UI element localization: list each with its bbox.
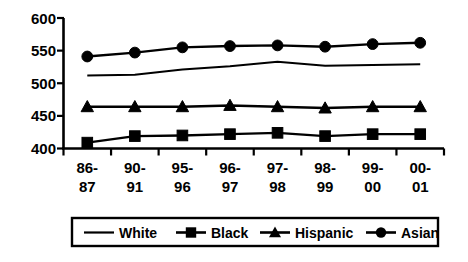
x-axis-tick-label: 90-91: [124, 159, 146, 195]
chart-container: 400450500550600 86-8790-9195-9696-9797-9…: [0, 0, 468, 262]
line-chart: 400450500550600 86-8790-9195-9696-9797-9…: [0, 0, 468, 262]
x-axis-tick-label: 95-96: [172, 159, 194, 195]
x-axis-tick-label: 99-00: [362, 159, 384, 195]
data-point-square: [82, 137, 93, 148]
x-axis-tick-label-line: 99-: [362, 159, 384, 176]
x-axis-tick-label-line: 98-: [314, 159, 336, 176]
legend-label: Hispanic: [295, 225, 354, 241]
x-axis-tick-label-line: 96: [174, 178, 191, 195]
x-axis-tick-label-line: 97-: [267, 159, 289, 176]
data-point-square: [320, 131, 331, 142]
data-point-circle: [225, 41, 236, 52]
legend-label: Asian: [401, 225, 439, 241]
data-point-circle: [272, 40, 283, 51]
data-point-circle: [129, 47, 140, 58]
x-axis-tick-label-line: 01: [412, 178, 429, 195]
y-axis-tick-label: 400: [31, 140, 56, 157]
legend-marker-circle: [376, 227, 386, 237]
y-axis-tick-label: 450: [31, 107, 56, 124]
x-axis-tick-label: 97-98: [267, 159, 289, 195]
chart-legend: WhiteBlackHispanicAsian: [72, 218, 439, 246]
series-black: [82, 128, 426, 148]
x-axis-tick-label-line: 95-: [172, 159, 194, 176]
legend-label: Black: [211, 225, 249, 241]
y-axis-tick-labels: 400450500550600: [31, 10, 56, 158]
chart-series-group: [81, 37, 426, 148]
data-point-square: [272, 128, 283, 139]
x-axis-tick-label-line: 90-: [124, 159, 146, 176]
data-point-square: [177, 130, 188, 141]
data-point-circle: [82, 51, 93, 62]
y-axis-tick-label: 500: [31, 75, 56, 92]
x-axis-tick-label-line: 96-: [219, 159, 241, 176]
x-axis-tick-label-line: 99: [317, 178, 334, 195]
x-axis-tick-label: 00-01: [409, 159, 431, 195]
series-asian: [82, 37, 426, 62]
x-axis-tick-label-line: 86-: [76, 159, 98, 176]
x-axis-tick-label: 98-99: [314, 159, 336, 195]
data-point-circle: [415, 37, 426, 48]
x-axis-tick-label-line: 87: [79, 178, 96, 195]
x-axis-tick-label-line: 91: [127, 178, 144, 195]
x-axis-tick-label-line: 98: [269, 178, 286, 195]
data-point-circle: [320, 41, 331, 52]
data-point-square: [225, 129, 236, 140]
x-axis-tick-label-line: 00: [364, 178, 381, 195]
x-axis-tick-labels: 86-8790-9195-9696-9797-9898-9999-0000-01: [76, 159, 431, 195]
series-white: [87, 62, 420, 76]
x-axis-tick-label: 96-97: [219, 159, 241, 195]
legend-label: White: [119, 225, 157, 241]
x-axis-tick-label-line: 00-: [409, 159, 431, 176]
data-point-circle: [177, 42, 188, 53]
y-axis-tick-label: 600: [31, 10, 56, 27]
legend-marker-square: [186, 227, 196, 237]
data-point-square: [130, 131, 141, 142]
y-axis-tick-label: 550: [31, 42, 56, 59]
data-point-circle: [367, 39, 378, 50]
series-line-white: [87, 62, 420, 76]
x-axis-tick-label-line: 97: [222, 178, 239, 195]
data-point-square: [367, 129, 378, 140]
series-hispanic: [81, 99, 426, 113]
data-point-square: [415, 129, 426, 140]
x-axis-tick-label: 86-87: [76, 159, 98, 195]
